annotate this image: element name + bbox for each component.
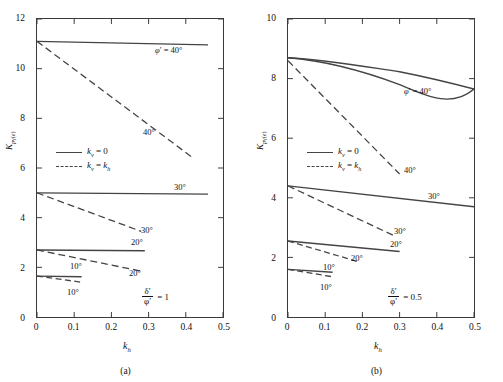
y-tick-a-2: 2 bbox=[7, 263, 25, 273]
curve-label-a-30-solid: 30° bbox=[174, 182, 186, 192]
x-tick-a-03: 0.3 bbox=[138, 322, 160, 332]
y-tick-b-0: 0 bbox=[258, 313, 276, 323]
legend-item-kv0-a: kv = 0 bbox=[56, 145, 110, 159]
curve-label-b-20-dashed: 20° bbox=[351, 253, 363, 263]
curve-label-a-20-solid: 20° bbox=[131, 237, 143, 247]
x-axis-label-a: kh bbox=[123, 340, 131, 353]
curve-label-b-10-dashed: 10° bbox=[320, 282, 332, 292]
legend-item-kvkh-b: kv = kh bbox=[307, 159, 361, 173]
x-axis-label-b: kh bbox=[374, 340, 382, 353]
panel-a: Kpγ(e) 12 10 8 6 4 2 0 bbox=[0, 0, 251, 382]
x-tick-a-0: 0 bbox=[25, 322, 47, 332]
curve-label-a-30-dashed: 30° bbox=[141, 225, 153, 235]
y-tick-a-10: 10 bbox=[7, 63, 25, 73]
y-tick-a-12: 12 bbox=[7, 13, 25, 23]
legend-dashed-swatch-b bbox=[307, 166, 333, 167]
panel-b: Kpγ(e) 10 8 6 4 2 0 bbox=[251, 0, 502, 382]
x-tick-b-04: 0.4 bbox=[426, 322, 448, 332]
x-tick-b-05: 0.5 bbox=[464, 322, 486, 332]
y-tick-a-0: 0 bbox=[7, 313, 25, 323]
legend-dashed-swatch-a bbox=[56, 166, 82, 167]
y-tick-b-2: 2 bbox=[258, 253, 276, 263]
curve-label-b-20-solid: 20° bbox=[390, 239, 402, 249]
y-axis-label-a: Kpγ(e) bbox=[4, 131, 16, 150]
curve-label-a-20-dashed: 20° bbox=[129, 268, 141, 278]
ratio-value-b: = 0.5 bbox=[403, 292, 422, 302]
phi-annotation-a: φ′ = 40° bbox=[155, 45, 183, 55]
ratio-value-a: = 1 bbox=[157, 292, 169, 302]
curve-label-a-40-dashed: 40° bbox=[143, 127, 155, 137]
legend-label-kvkh-a: kv = kh bbox=[87, 160, 110, 172]
x-tick-a-04: 0.4 bbox=[175, 322, 197, 332]
curve-label-a-10-solid: 10° bbox=[70, 261, 82, 271]
x-tick-b-02: 0.2 bbox=[351, 322, 373, 332]
legend-a: kv = 0 kv = kh bbox=[56, 145, 110, 173]
y-tick-b-6: 6 bbox=[258, 133, 276, 143]
y-tick-b-10: 10 bbox=[258, 13, 276, 23]
ratio-denominator-b: φ′ bbox=[388, 297, 399, 306]
x-tick-b-0: 0 bbox=[276, 322, 298, 332]
legend-solid-swatch-a bbox=[56, 152, 82, 153]
y-tick-a-8: 8 bbox=[7, 113, 25, 123]
ratio-annotation-a: δ′ φ′ = 1 bbox=[142, 287, 169, 307]
x-tick-a-01: 0.1 bbox=[63, 322, 85, 332]
x-tick-a-05: 0.5 bbox=[213, 322, 235, 332]
ratio-annotation-b: δ′ φ′ = 0.5 bbox=[388, 287, 422, 307]
phi-annotation-b: φ′ = 40° bbox=[404, 86, 432, 96]
legend-label-kv0-a: kv = 0 bbox=[87, 146, 108, 158]
plot-area-a: φ′ = 40° 40° 30° 30° 20° 20° 10° 10° kv … bbox=[36, 18, 224, 318]
legend-b: kv = 0 kv = kh bbox=[307, 145, 361, 173]
x-tick-a-02: 0.2 bbox=[100, 322, 122, 332]
curve-label-a-10-dashed: 10° bbox=[67, 287, 79, 297]
legend-label-kvkh-b: kv = kh bbox=[338, 160, 361, 172]
y-tick-b-4: 4 bbox=[258, 193, 276, 203]
curve-label-b-10-solid: 10° bbox=[323, 262, 335, 272]
curve-label-b-30-dashed: 30° bbox=[394, 226, 406, 236]
ratio-fraction-a: δ′ φ′ bbox=[142, 287, 153, 307]
legend-item-kv0-b: kv = 0 bbox=[307, 145, 361, 159]
ratio-denominator-a: φ′ bbox=[142, 297, 153, 306]
legend-solid-swatch-b bbox=[307, 152, 333, 153]
curve-label-b-30-solid: 30° bbox=[428, 191, 440, 201]
plot-area-b: φ′ = 40° 40° 30° 30° 20° 20° 10° 10° kv … bbox=[287, 18, 475, 318]
figure-container: Kpγ(e) 12 10 8 6 4 2 0 bbox=[0, 0, 503, 382]
x-tick-b-03: 0.3 bbox=[389, 322, 411, 332]
legend-label-kv0-b: kv = 0 bbox=[338, 146, 359, 158]
x-tick-b-01: 0.1 bbox=[314, 322, 336, 332]
ratio-fraction-b: δ′ φ′ bbox=[388, 287, 399, 307]
y-tick-b-8: 8 bbox=[258, 73, 276, 83]
y-tick-a-6: 6 bbox=[7, 163, 25, 173]
y-tick-a-4: 4 bbox=[7, 213, 25, 223]
curve-label-b-40-dashed: 40° bbox=[404, 165, 416, 175]
caption-a: (a) bbox=[0, 366, 251, 376]
caption-b: (b) bbox=[251, 366, 502, 376]
legend-item-kvkh-a: kv = kh bbox=[56, 159, 110, 173]
